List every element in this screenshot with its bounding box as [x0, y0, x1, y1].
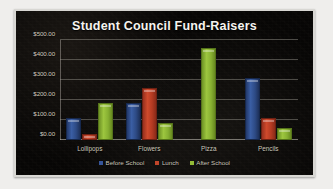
- bars: [239, 40, 299, 140]
- bar: [201, 48, 216, 140]
- legend-item: Lunch: [155, 159, 178, 166]
- y-axis-tick-label: $400.00: [33, 50, 55, 57]
- bars: [179, 40, 239, 140]
- bar: [82, 134, 97, 140]
- bar: [245, 78, 260, 140]
- legend-label: Before School: [106, 159, 145, 166]
- bar-group: Pizza: [179, 40, 239, 140]
- y-axis-tick-label: $100.00: [33, 110, 55, 117]
- bar: [66, 118, 81, 140]
- legend-swatch-icon: [99, 161, 103, 165]
- chart-legend: Before SchoolLunchAfter School: [16, 159, 313, 166]
- y-axis-tick-label: $0.00: [40, 130, 55, 137]
- chart-screenshot: Student Council Fund-Raisers $0.00$100.0…: [0, 0, 333, 189]
- x-axis-tick-label: Flowers: [120, 145, 180, 152]
- bar-groups: LollipopsFlowersPizzaPencils: [60, 40, 298, 140]
- bar: [142, 88, 157, 140]
- bar: [277, 128, 292, 140]
- y-axis-tick-label: $200.00: [33, 90, 55, 97]
- x-axis-tick-label: Pizza: [179, 145, 239, 152]
- legend-item: After School: [190, 159, 230, 166]
- bars: [60, 40, 120, 140]
- y-axis-tick-label: $300.00: [33, 70, 55, 77]
- x-axis-tick-label: Lollipops: [60, 145, 120, 152]
- legend-label: Lunch: [162, 159, 179, 166]
- legend-label: After School: [196, 159, 230, 166]
- bar-group: Flowers: [120, 40, 180, 140]
- y-axis-tick-label: $500.00: [33, 30, 55, 37]
- bar: [261, 118, 276, 140]
- bar: [126, 103, 141, 140]
- legend-swatch-icon: [190, 161, 194, 165]
- chart-title: Student Council Fund-Raisers: [16, 19, 313, 33]
- bars: [120, 40, 180, 140]
- plot-area: $0.00$100.00$200.00$300.00$400.00$500.00…: [60, 40, 298, 140]
- legend-swatch-icon: [155, 161, 159, 165]
- chart-frame: Student Council Fund-Raisers $0.00$100.0…: [14, 9, 315, 177]
- chart-surface: Student Council Fund-Raisers $0.00$100.0…: [16, 11, 313, 175]
- bar: [158, 123, 173, 140]
- bar-group: Pencils: [239, 40, 299, 140]
- bar: [98, 103, 113, 140]
- bar-group: Lollipops: [60, 40, 120, 140]
- legend-item: Before School: [99, 159, 144, 166]
- x-axis-tick-label: Pencils: [239, 145, 299, 152]
